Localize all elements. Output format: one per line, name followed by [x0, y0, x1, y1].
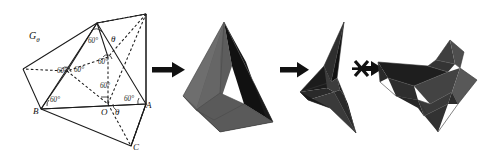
family-label-G-theta: Gθ — [29, 30, 40, 44]
angle-label-60-6: 60° — [50, 96, 60, 104]
vertex-label-B: B — [33, 106, 39, 116]
angle-label-60-3: 60° — [100, 82, 110, 90]
star-faces — [300, 22, 356, 133]
angle-label-60-2: 60° — [98, 58, 108, 66]
angle-label-60-1: 60° — [88, 37, 98, 45]
angle-label-60-5: 60° — [57, 67, 67, 75]
angle-label-60-7: 60° — [124, 95, 134, 103]
crease-pattern-diagram: Gθ A B C O θ θ 60° 60° 60° 60° 60° 60° 6… — [0, 0, 160, 159]
folded-flat-model — [378, 0, 478, 159]
vertex-label-C: C — [133, 142, 140, 152]
vertex-label-A: A — [145, 100, 152, 110]
theta-label-at-apex: θ — [111, 34, 116, 44]
vertex-label-O: O — [101, 107, 108, 117]
theta-label-at-O: θ — [115, 107, 120, 117]
angle-label-60-4: 60° — [74, 66, 84, 74]
tetrahedron-model — [180, 0, 290, 159]
folded-faces — [378, 40, 477, 132]
figure-canvas: Gθ A B C O θ θ 60° 60° 60° 60° 60° 60° 6… — [0, 0, 478, 159]
tetrahedron-faces — [183, 22, 273, 132]
